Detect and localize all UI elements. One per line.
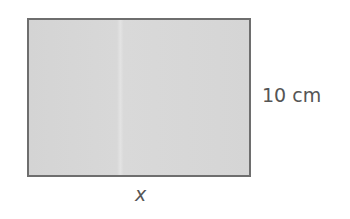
rectangle-shape xyxy=(27,18,251,177)
width-label: x xyxy=(135,183,146,205)
height-label: 10 cm xyxy=(262,84,321,106)
